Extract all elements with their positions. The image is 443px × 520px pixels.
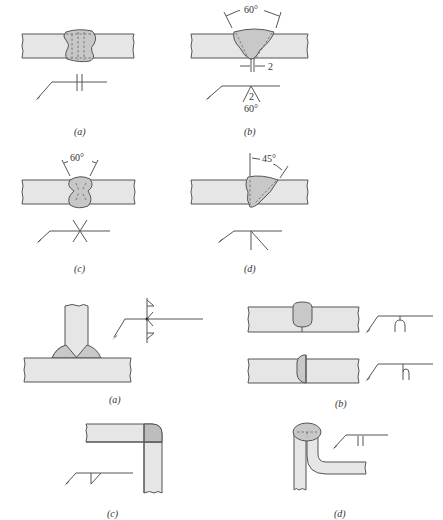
panel-2c: (c) (64, 424, 162, 520)
welding-symbols-diagram: (a) 60° 2 2 60° (b) (0, 0, 443, 520)
caption-2d: (d) (334, 508, 346, 520)
symbol-root-1b: 2 (249, 91, 254, 102)
caption-2a: (a) (109, 394, 121, 406)
panel-1a: (a) (22, 30, 134, 138)
caption-1a: (a) (74, 126, 86, 138)
panel-1b: 60° 2 2 60° (b) (191, 3, 308, 138)
panel-1c: 60° (c) (22, 152, 135, 275)
caption-1c: (c) (74, 263, 86, 275)
caption-1b: (b) (244, 126, 256, 138)
angle-label-1d: 45° (262, 153, 276, 164)
angle-label-1c: 60° (70, 152, 84, 163)
panel-2d: (d) (293, 423, 388, 520)
symbol-angle-1b: 60° (244, 103, 258, 114)
gap-label-1b: 2 (268, 61, 273, 72)
caption-1d: (d) (244, 263, 256, 275)
panel-2a: (a) (24, 298, 203, 406)
angle-label-1b: 60° (244, 4, 258, 15)
panel-2b: (b) (248, 302, 433, 410)
panel-1d: 45° (d) (191, 153, 308, 275)
caption-2b: (b) (335, 398, 347, 410)
caption-2c: (c) (107, 508, 119, 520)
